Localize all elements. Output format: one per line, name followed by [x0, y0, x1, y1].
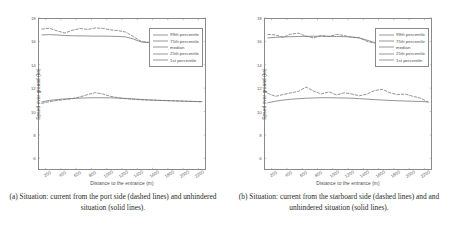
x-axis-label-b: Distance to the entrance (m): [264, 181, 432, 186]
x-tick-label: 2200: [194, 170, 205, 179]
legend-line-icon: [153, 33, 168, 37]
legend-line-icon: [379, 58, 394, 62]
y-tick-label: 8: [259, 132, 261, 137]
y-tick-label: 10: [257, 109, 262, 114]
legend-label: 25th percentile: [396, 51, 425, 56]
x-tick-label: 800: [88, 170, 97, 178]
caption-a: (a) Situation: current from the port sid…: [6, 192, 220, 213]
caption-b: (b) Situation: current from the starboar…: [232, 192, 446, 213]
y-tick-label: 16: [31, 39, 36, 44]
legend-label: median: [170, 45, 184, 50]
x-tick-label: 2000: [179, 170, 190, 179]
y-tick-label: 6: [259, 156, 261, 161]
x-tick-label: 2200: [420, 170, 431, 179]
x-tick-label: 1000: [103, 170, 114, 179]
panel-b: Speed over ground (kn) 18 16 14 12 10 8 …: [226, 0, 452, 228]
y-tick-label: 18: [31, 16, 36, 21]
x-tick-label: 1000: [329, 170, 340, 179]
x-tick-label: 1800: [390, 170, 401, 179]
legend-line-icon: [379, 33, 394, 37]
legend-label: 75th percentile: [170, 39, 199, 44]
y-tick-label: 14: [31, 62, 36, 67]
x-tick-label: 1200: [344, 170, 355, 179]
x-tick-label: 200: [43, 170, 52, 178]
y-tick-label: 18: [257, 16, 262, 21]
legend-line-icon: [379, 52, 394, 56]
y-tick-label: 16: [257, 39, 262, 44]
legend-label: 1st percentile: [170, 58, 196, 63]
legend-label: 99th percentile: [396, 32, 425, 37]
x-tick-label: 200: [269, 170, 278, 178]
legend-line-icon: [153, 52, 168, 56]
legend-label: 1st percentile: [396, 58, 422, 63]
y-tick-label: 14: [257, 62, 262, 67]
legend-line-icon: [153, 39, 168, 43]
x-tick-label: 1600: [374, 170, 385, 179]
x-tick-label: 400: [284, 170, 293, 178]
legend-a: 99th percentile 75th percentile median: [149, 28, 203, 67]
panel-a: Speed over ground (kn) 18 16 14 12 10 8 …: [0, 0, 226, 228]
legend-line-icon: [379, 39, 394, 43]
legend-label: 75th percentile: [396, 39, 425, 44]
legend-line-icon: [379, 45, 394, 49]
x-tick-label: 600: [299, 170, 308, 178]
x-tick-label: 800: [314, 170, 323, 178]
plot-area-b: Speed over ground (kn) 18 16 14 12 10 8 …: [264, 18, 432, 170]
legend-line-icon: [153, 58, 168, 62]
x-tick-label: 600: [73, 170, 82, 178]
legend-item: 1st percentile: [379, 57, 425, 63]
y-tick-label: 12: [257, 86, 262, 91]
x-tick-label: 1800: [164, 170, 175, 179]
y-tick-label: 8: [33, 132, 35, 137]
y-tick-label: 6: [33, 156, 35, 161]
y-tick-label: 12: [31, 86, 36, 91]
y-tick-label: 10: [31, 109, 36, 114]
legend-label: 25th percentile: [170, 51, 199, 56]
x-tick-label: 1400: [359, 170, 370, 179]
legend-line-icon: [153, 45, 168, 49]
legend-b: 99th percentile 75th percentile median: [375, 28, 429, 67]
x-axis-label-a: Distance to the entrance (m): [38, 181, 206, 186]
x-tick-label: 1600: [148, 170, 159, 179]
figure-two-panel-speed-over-ground: Speed over ground (kn) 18 16 14 12 10 8 …: [0, 0, 453, 228]
legend-label: 99th percentile: [170, 32, 199, 37]
x-tick-label: 1400: [133, 170, 144, 179]
x-tick-label: 400: [58, 170, 67, 178]
legend-item: 1st percentile: [153, 57, 199, 63]
x-tick-label: 2000: [405, 170, 416, 179]
plot-area-a: Speed over ground (kn) 18 16 14 12 10 8 …: [38, 18, 206, 170]
x-tick-label: 1200: [118, 170, 129, 179]
legend-label: median: [396, 45, 410, 50]
